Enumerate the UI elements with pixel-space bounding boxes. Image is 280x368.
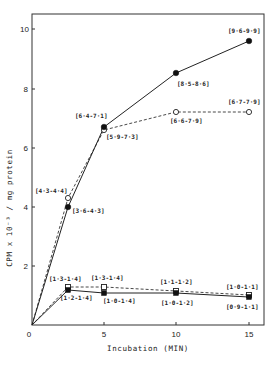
x-tick-labels: 0 5 10 15 [27,330,254,339]
filled-square-marker [247,295,252,300]
y-axis-title: CPM x 10⁻³ / mg protein [5,149,14,267]
y-tick-label: 10 [20,25,29,34]
x-axis-title: Incubation (MIN) [107,344,189,353]
range-label: [1·2-1·4] [60,294,93,301]
x-tick-label: 10 [172,330,181,339]
series-open-circles-markers [65,109,251,200]
filled-circle-marker [65,204,71,210]
open-circle-marker [65,195,70,200]
range-label: [9·6-9·9] [228,27,261,34]
range-label: [1·1-1·2] [160,278,193,285]
range-label: [1·0-1·4] [103,297,136,304]
x-tick-label: 0 [27,330,32,339]
series-filled-circles-line [32,41,249,325]
range-label: [6·4-7·1] [75,112,108,119]
y-tick-label: 6 [24,144,29,153]
filled-square-marker [66,288,71,293]
y-tick-label: 4 [24,203,29,212]
x-tick-label: 5 [102,330,107,339]
range-label: [1·0-1·2] [161,299,194,306]
range-label: [5·9-7·3] [106,133,139,140]
range-label: [8·5-8·6] [177,80,210,87]
range-label: [6·6-7·9] [170,117,203,124]
range-label: [6·7-7·9] [228,98,261,105]
open-circle-marker [173,109,178,114]
range-label: [3·6-4·3] [72,207,105,214]
filled-circle-marker [173,70,179,76]
range-label: [1·3-1·4] [91,274,124,281]
series-filled-circles-markers [65,38,252,210]
x-tick-label: 15 [245,330,254,339]
y-tick-label: 2 [24,262,29,271]
filled-square-marker [174,291,179,296]
y-tick-label: 8 [24,85,29,94]
open-circle-marker [246,109,251,114]
y-tick-labels: 2 4 6 8 10 [20,25,29,271]
filled-square-marker [102,291,107,296]
filled-circle-marker [246,38,252,44]
range-label: [1·0-1·1] [226,283,259,290]
open-square-marker [102,285,107,290]
range-label: [0·9-1·1] [226,303,259,310]
range-label: [1·3-1·4] [49,275,82,282]
range-label: [4·3-4·4] [35,187,68,194]
chart: 2 4 6 8 10 0 5 10 15 Incubation (MIN) CP… [0,0,280,368]
filled-circle-marker [101,124,107,130]
range-annotations: [9·6-9·9] [8·5-8·6] [6·4-7·1] [5·9-7·3] … [35,27,261,310]
